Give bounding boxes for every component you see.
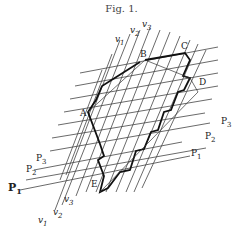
- p3-label-left: P3: [36, 153, 47, 166]
- v3-label-bottom: v3: [64, 194, 74, 207]
- vertex-label-c: C: [181, 41, 188, 51]
- v2-label-top: v2: [130, 25, 140, 38]
- p2-label-left: P2: [26, 164, 37, 177]
- vertex-label-e: E: [91, 179, 98, 189]
- v-line-family: [55, 28, 206, 210]
- p3-label-right: P3: [221, 116, 232, 129]
- p1-label-left: P1: [8, 181, 22, 196]
- vertex-label-d: D: [199, 77, 206, 87]
- v3-label-top: v3: [142, 19, 152, 32]
- p2-label-right: P2: [205, 131, 216, 144]
- v2-label-bottom: v2: [53, 207, 63, 220]
- v1-label-bottom: v1: [38, 215, 48, 228]
- vertex-label-b: B: [140, 49, 147, 59]
- vertex-label-a: A: [79, 108, 87, 118]
- staircase-polygon: [88, 53, 190, 192]
- p-line-family: [20, 47, 218, 190]
- p1-label-right: P1: [191, 148, 202, 161]
- grid-diagram: A B C D E v1 v2 v3 v1 v2 v3 P1 P2 P3 P1 …: [0, 0, 243, 236]
- v1-label-top: v1: [115, 34, 125, 47]
